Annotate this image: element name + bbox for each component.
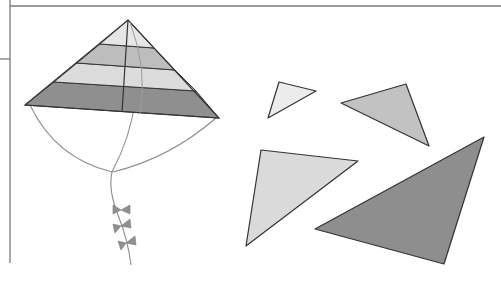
bridle-left	[30, 105, 112, 172]
bow-icon	[113, 205, 130, 214]
kite-triangles-figure	[0, 0, 501, 283]
triangle-1	[268, 82, 316, 118]
triangle-2	[341, 84, 429, 146]
bow-icon	[118, 236, 136, 250]
triangle-4	[315, 137, 484, 264]
bridle-right	[113, 118, 216, 172]
triangles	[246, 82, 484, 264]
figure-svg	[0, 0, 501, 283]
kite-tail	[111, 172, 131, 265]
bow-icon	[113, 219, 131, 233]
tail-bows	[113, 205, 136, 250]
kite-sail	[25, 20, 219, 118]
